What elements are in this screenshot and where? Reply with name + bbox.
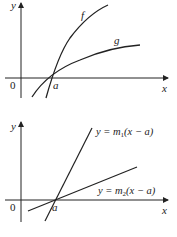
bottom-y-label: y bbox=[10, 120, 16, 132]
figure: y x 0 a f g y x 0 a y = m1(x − a) y = m2… bbox=[0, 0, 177, 237]
bottom-x-label: x bbox=[161, 204, 167, 216]
top-y-label: y bbox=[10, 0, 16, 11]
line-m2-equation: y = m2(x − a) bbox=[97, 185, 156, 198]
bottom-graph: y x 0 a y = m1(x − a) y = m2(x − a) bbox=[5, 120, 168, 222]
line-m1-equation: y = m1(x − a) bbox=[95, 126, 154, 139]
curve-f-label: f bbox=[81, 9, 86, 21]
top-graph: y x 0 a f g bbox=[5, 0, 168, 98]
curve-g-label: g bbox=[114, 34, 120, 46]
top-x-label: x bbox=[161, 82, 167, 94]
top-origin-label: 0 bbox=[10, 79, 16, 91]
top-point-a-label: a bbox=[53, 79, 59, 91]
bottom-point-a-label: a bbox=[52, 201, 58, 213]
bottom-origin-label: 0 bbox=[10, 201, 16, 213]
